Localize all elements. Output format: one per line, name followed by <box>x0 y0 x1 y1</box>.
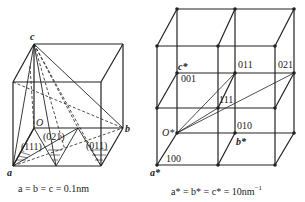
label-a: a <box>7 167 12 178</box>
label-111: 111 <box>219 94 233 105</box>
label-b-star: b* <box>236 136 247 147</box>
label-c: c <box>30 31 35 42</box>
label-a-star: a* <box>150 167 161 178</box>
label-021: 021 <box>278 59 293 70</box>
diagram-canvas: c O b a (111) (021) (011) a = b = c = 0.… <box>0 0 305 202</box>
plane-021: (021) <box>43 131 65 143</box>
label-c-star: c* <box>178 61 188 72</box>
label-001: 001 <box>181 73 196 84</box>
left-caption: a = b = c = 0.1nm <box>18 183 89 194</box>
label-010: 010 <box>237 120 252 131</box>
reciprocal-lattice <box>157 9 294 165</box>
plane-011: (011) <box>86 140 107 152</box>
label-o-star: O* <box>162 127 174 138</box>
label-100: 100 <box>166 153 181 164</box>
right-caption: a* = b* = c* = 10nm−1 <box>171 184 263 197</box>
label-o: O <box>36 117 43 128</box>
label-011: 011 <box>238 59 253 70</box>
label-b: b <box>125 123 130 134</box>
plane-111: (111) <box>21 141 42 153</box>
